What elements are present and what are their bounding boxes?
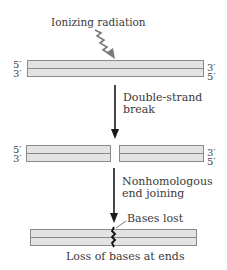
leader-line [116, 221, 126, 228]
step1-line2: break [123, 104, 202, 116]
left-end-bottom-label: 3′ [13, 69, 22, 78]
bases-lost-label: Bases lost [127, 213, 183, 225]
right-end-bottom-label: 5′ [207, 72, 216, 81]
nhej-label: Nonhomologous end joining [122, 176, 213, 200]
bottom-strand [27, 68, 204, 77]
wavy-arrow-icon [95, 30, 115, 59]
down-arrow-icon [110, 168, 118, 223]
joined-bottom-strand [30, 237, 197, 246]
down-arrow-icon [111, 85, 119, 139]
right-fragment-bottom [119, 153, 204, 162]
right-end-bottom-label: 5′ [207, 157, 216, 166]
double-strand-break-label: Double-strand break [123, 92, 202, 116]
left-end-bottom-label: 3′ [13, 154, 22, 163]
left-fragment-bottom [26, 153, 111, 162]
step2-line2: end joining [122, 188, 213, 200]
caption: Loss of bases at ends [66, 251, 185, 263]
